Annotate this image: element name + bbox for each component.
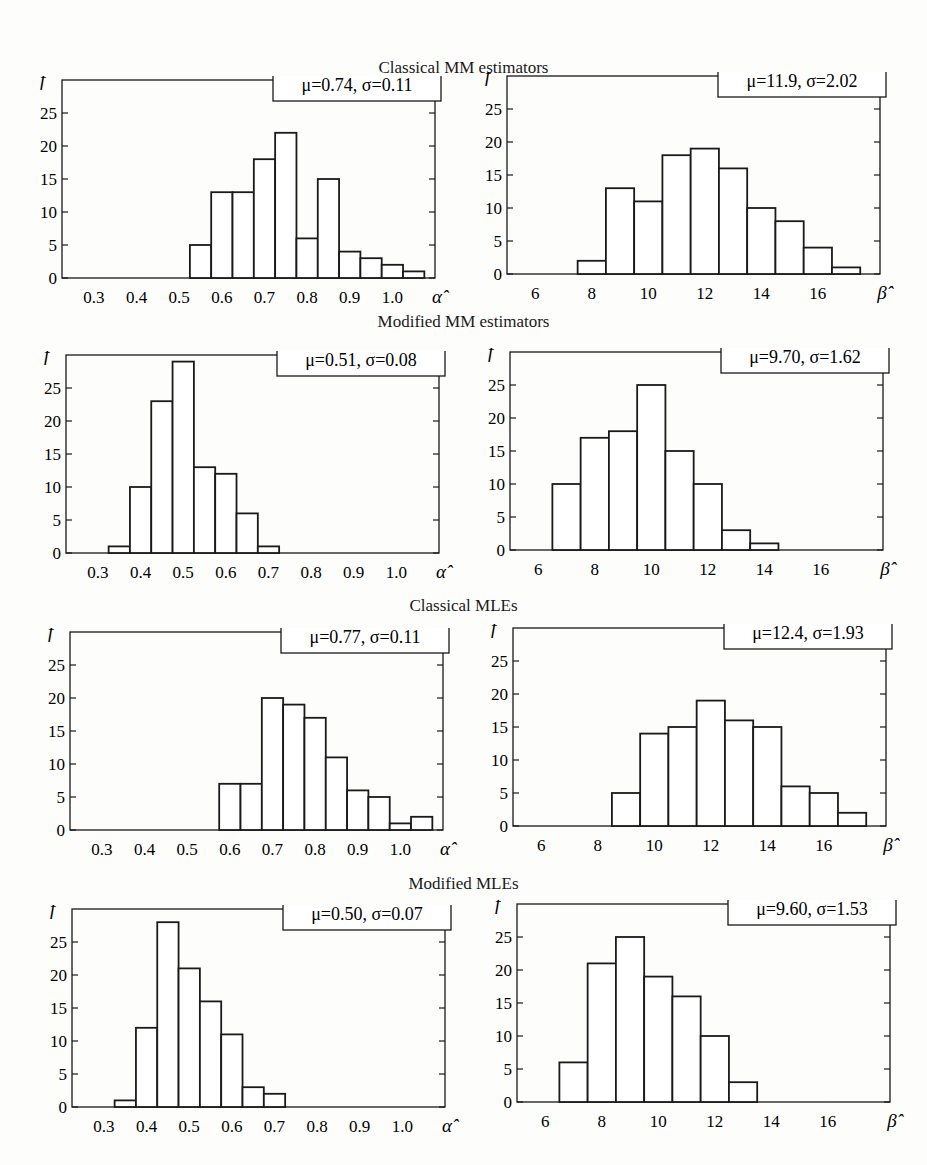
histogram-bar [644,977,672,1102]
histogram-bar [339,252,360,278]
stats-annotation: μ=12.4, σ=1.93 [752,624,864,643]
x-tick-label: 0.7 [264,1117,286,1136]
histogram-bar [637,385,665,550]
histogram-bar [258,546,279,553]
x-tick-label: 16 [809,284,826,303]
histogram-bar [233,192,254,278]
stats-annotation: μ=0.50, σ=0.07 [311,905,423,924]
y-tick-label: 0 [504,1093,513,1112]
x-tick-label: 6 [541,1112,550,1131]
histogram-bar [211,192,232,278]
histogram-bar [640,734,668,826]
x-axis-label: β̂ [879,558,897,579]
histogram-bar [262,698,283,830]
histogram-bar [750,543,778,550]
histogram-bar [326,757,347,830]
histogram-bar [729,1082,757,1102]
histogram-bar [694,484,722,550]
x-tick-label: 8 [588,284,597,303]
histogram-bar [157,922,178,1107]
y-tick-label: 15 [40,170,57,189]
x-tick-label: 16 [812,560,829,579]
histogram-bar [691,149,719,274]
y-tick-label: 10 [44,478,61,497]
section-title-modified-mle: Modified MLEs [0,874,927,894]
histogram-classical-mle-alpha: 05101520250.30.40.50.60.70.80.91.0fα̂μ=0… [28,628,458,864]
histogram-bar [109,546,130,553]
y-tick-label: 20 [488,409,505,428]
x-tick-label: 8 [591,560,600,579]
y-tick-label: 0 [49,269,58,288]
y-tick-label: 10 [50,1032,67,1051]
y-axis-label: f [488,348,496,362]
histogram-bar [411,817,432,830]
y-tick-label: 0 [53,544,62,563]
y-tick-label: 15 [48,722,65,741]
y-tick-label: 0 [494,265,503,284]
x-tick-label: 0.8 [300,563,321,582]
histogram-bar [662,155,690,274]
histogram-classical-mle-beta: 05101520256810121416fβ̂μ=12.4, σ=1.93 [471,624,901,860]
x-tick-label: 0.7 [258,563,280,582]
y-tick-label: 0 [500,817,509,836]
histogram-bar [722,530,750,550]
histogram-bar [588,963,616,1102]
x-tick-label: 0.5 [173,563,194,582]
histogram-bar [612,793,640,826]
histogram-bar [672,996,700,1102]
histogram-bar [173,362,194,553]
y-tick-label: 10 [485,199,502,218]
y-axis-label: f [50,905,58,919]
y-tick-label: 25 [50,933,67,952]
histogram-bar [360,258,381,278]
x-tick-label: 0.6 [221,1117,242,1136]
x-tick-label: 0.3 [83,288,104,307]
histogram-bar [221,1034,242,1107]
x-tick-label: 10 [643,560,660,579]
stats-annotation: μ=0.51, σ=0.08 [305,351,417,370]
x-tick-label: 1.0 [386,563,407,582]
x-tick-label: 0.4 [136,1117,158,1136]
y-tick-label: 5 [59,1065,68,1084]
x-tick-label: 6 [534,560,543,579]
x-axis-label: α̂ [442,1115,460,1136]
histogram-bar [304,718,325,830]
y-tick-label: 25 [491,652,508,671]
x-tick-label: 0.6 [219,840,240,859]
section-title-modified-mm: Modified MM estimators [0,312,927,332]
histogram-bar [215,474,236,553]
x-tick-label: 0.8 [304,840,325,859]
histogram-bar [382,265,403,278]
y-tick-label: 15 [44,445,61,464]
histogram-bar [283,705,304,830]
y-tick-label: 20 [485,133,502,152]
histogram-bar [296,238,317,278]
y-axis-label: f [48,628,56,642]
histogram-bar [390,823,411,830]
x-tick-label: 14 [753,284,771,303]
histogram-bar [200,1001,221,1107]
stats-annotation: μ=0.74, σ=0.11 [302,76,413,95]
histogram-bar [719,168,747,274]
y-tick-label: 10 [491,751,508,770]
y-tick-label: 5 [49,236,58,255]
histogram-bar [179,968,200,1107]
x-axis-label: α̂ [436,561,454,582]
x-tick-label: 1.0 [392,1117,413,1136]
stats-annotation: μ=0.77, σ=0.11 [310,628,421,647]
x-axis-label: β̂ [882,834,900,855]
x-tick-label: 0.9 [349,1117,370,1136]
y-axis-label: f [485,72,493,86]
x-tick-label: 8 [598,1112,607,1131]
histogram-bar [151,401,172,553]
y-tick-label: 15 [485,166,502,185]
histogram-modified-mm-beta: 05101520256810121416fβ̂μ=9.70, σ=1.62 [468,348,898,584]
histogram-bar [747,208,775,274]
x-tick-label: 12 [706,1112,723,1131]
y-tick-label: 5 [500,784,509,803]
y-tick-label: 20 [48,689,65,708]
x-tick-label: 16 [819,1112,836,1131]
x-tick-label: 0.4 [126,288,148,307]
histogram-bar [775,221,803,274]
y-tick-label: 15 [491,718,508,737]
